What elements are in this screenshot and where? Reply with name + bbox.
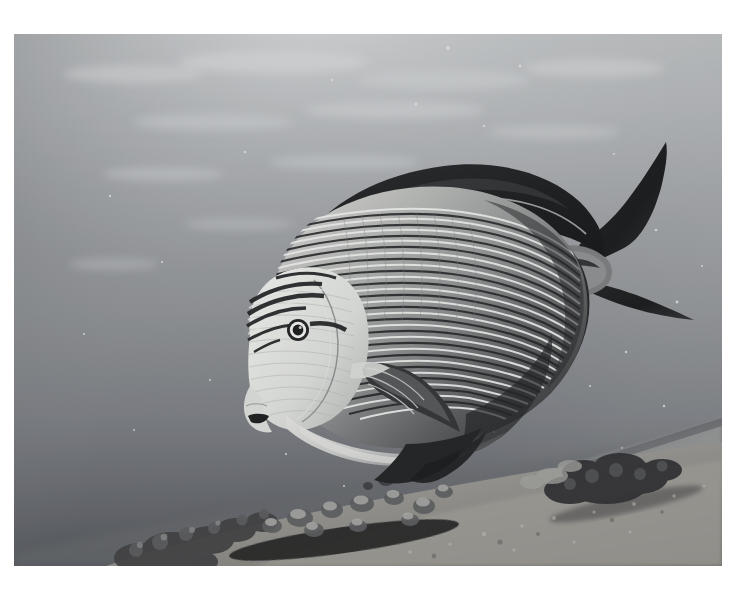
underwater-fish-photograph	[14, 34, 722, 566]
page-root: A black and white underwater photograph …	[0, 0, 753, 599]
photo-frame	[14, 34, 722, 566]
